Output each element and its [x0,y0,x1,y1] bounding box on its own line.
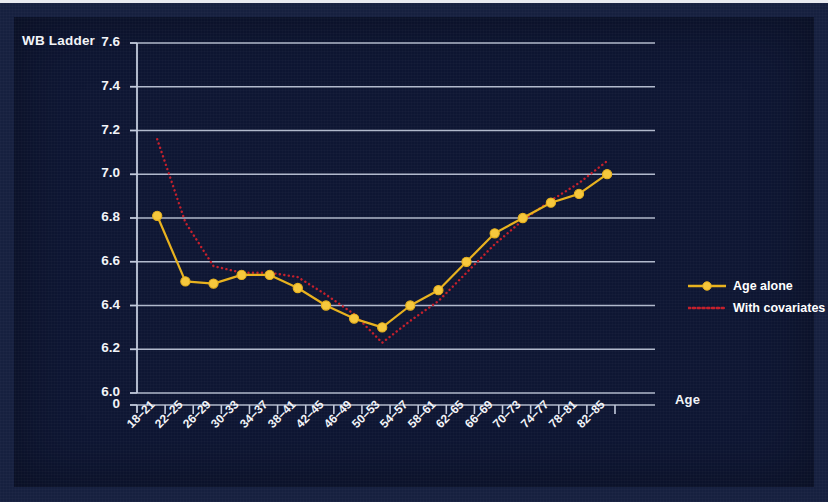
legend-swatch-with-covariates [688,301,726,315]
y-tick-label: 6.6 [80,253,120,268]
series-with-covariates [157,139,607,343]
y-tick-label: 7.6 [80,34,120,49]
legend-item-age-alone: Age alone [688,275,823,297]
series-age-alone-markers [153,170,612,332]
chart-legend: Age alone With covariates [688,275,823,319]
y-tick-label: 6.8 [80,209,120,224]
legend-item-with-covariates: With covariates [688,297,823,319]
y-tick-label: 7.4 [80,78,120,93]
y-tick-label: 7.2 [80,122,120,137]
gridlines [137,43,655,405]
legend-swatch-age-alone [688,279,726,293]
y-tick-label: 6.2 [80,340,120,355]
y-tick-label: 6.4 [80,297,120,312]
legend-label-age-alone: Age alone [733,279,793,293]
chart-figure: WB Ladder Age 7.67.47.27.06.86.66.46.26.… [0,0,828,502]
y-tick-label: 7.0 [80,165,120,180]
y-tick-marks [130,43,137,405]
y-tick-label: 0 [80,396,120,411]
legend-label-with-covariates: With covariates [733,301,825,315]
series-age-alone [157,174,607,327]
